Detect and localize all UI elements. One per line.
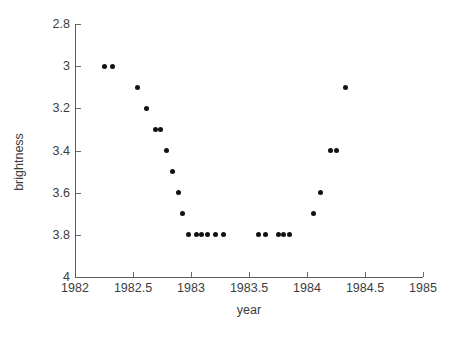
data-point	[281, 232, 286, 237]
y-axis-tick	[76, 277, 81, 278]
data-point	[263, 232, 268, 237]
x-axis-tick	[307, 272, 308, 277]
data-point	[180, 211, 185, 216]
data-point	[213, 232, 218, 237]
data-point	[170, 169, 175, 174]
data-point	[276, 232, 281, 237]
data-point	[186, 232, 191, 237]
x-axis-tick-label: 1984	[293, 281, 321, 295]
y-axis-tick	[76, 235, 81, 236]
data-point	[135, 85, 140, 90]
data-point	[153, 127, 158, 132]
x-axis-tick	[423, 272, 424, 277]
x-axis-tick	[133, 272, 134, 277]
y-axis-tick-label: 3.6	[22, 186, 70, 200]
data-point	[221, 232, 226, 237]
y-axis-tick	[76, 193, 81, 194]
data-point	[164, 148, 169, 153]
data-point	[256, 232, 261, 237]
y-axis-tick-label: 3	[22, 59, 70, 73]
x-axis-tick-label: 1983.5	[230, 281, 268, 295]
y-axis-tick-label: 2.8	[22, 17, 70, 31]
data-point	[328, 148, 333, 153]
x-axis-line	[75, 277, 423, 278]
x-axis-tick-label: 1983	[177, 281, 205, 295]
data-point	[343, 85, 348, 90]
y-axis-tick	[76, 151, 81, 152]
x-axis-tick	[191, 272, 192, 277]
x-axis-tick-label: 1985	[409, 281, 437, 295]
x-axis-tick-label: 1982.5	[114, 281, 152, 295]
data-point	[102, 64, 107, 69]
data-point	[144, 106, 149, 111]
scatter-plot: 2.833.23.43.63.84 19821982.519831983.519…	[0, 0, 458, 343]
x-axis-tick	[365, 272, 366, 277]
data-point	[287, 232, 292, 237]
data-point	[176, 190, 181, 195]
x-axis-tick-label: 1984.5	[346, 281, 384, 295]
data-point	[158, 127, 163, 132]
y-axis-title: brightness	[12, 117, 26, 207]
data-point	[318, 190, 323, 195]
data-point	[311, 211, 316, 216]
y-axis-tick-label: 3.4	[22, 144, 70, 158]
x-axis-tick	[249, 272, 250, 277]
data-point	[205, 232, 210, 237]
x-axis-title: year	[75, 303, 423, 317]
y-axis-tick-label: 3.2	[22, 101, 70, 115]
y-axis-tick	[76, 108, 81, 109]
y-axis-tick	[76, 66, 81, 67]
chart-container: 2.833.23.43.63.84 19821982.519831983.519…	[0, 0, 458, 343]
data-point	[199, 232, 204, 237]
y-axis-tick-label: 3.8	[22, 228, 70, 242]
data-point	[334, 148, 339, 153]
x-axis-tick-label: 1982	[61, 281, 89, 295]
y-axis-tick	[76, 24, 81, 25]
data-point	[110, 64, 115, 69]
